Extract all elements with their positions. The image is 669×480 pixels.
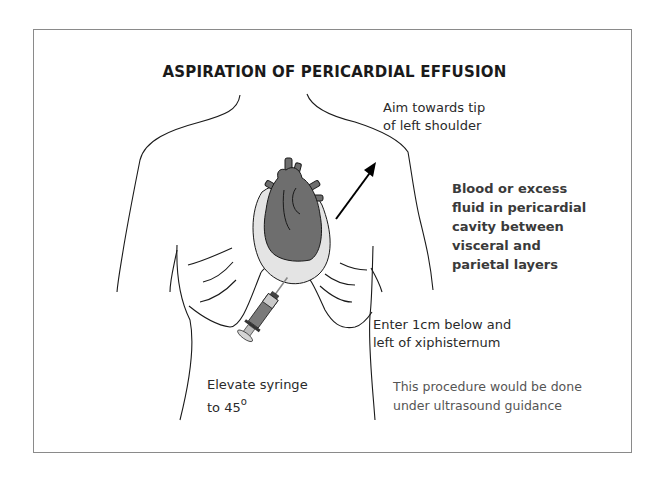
elevate-line2: to 45 bbox=[207, 400, 241, 415]
heart-illustration bbox=[264, 158, 323, 261]
arrow-icon bbox=[336, 162, 376, 219]
figure-title: ASPIRATION OF PERICARDIAL EFFUSION bbox=[0, 63, 669, 81]
label-ultrasound-note: This procedure would be done under ultra… bbox=[393, 377, 582, 415]
degree-symbol: o bbox=[241, 396, 247, 407]
label-entry-point: Enter 1cm below and left of xiphisternum bbox=[373, 316, 511, 352]
label-effusion: Blood or excess fluid in pericardial cav… bbox=[452, 179, 586, 274]
label-aim-direction: Aim towards tip of left shoulder bbox=[383, 99, 485, 135]
label-elevate-syringe: Elevate syringe to 45o bbox=[207, 376, 308, 416]
elevate-line1: Elevate syringe bbox=[207, 377, 308, 392]
